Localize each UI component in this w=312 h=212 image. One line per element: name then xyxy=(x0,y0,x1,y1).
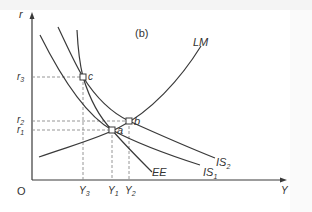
ee-label: EE xyxy=(152,166,167,178)
point-a-marker xyxy=(109,127,115,133)
y2-tick-label: Y2 xyxy=(125,185,136,197)
r-axis-arrow-icon xyxy=(30,12,35,19)
is1-label: IS1 xyxy=(203,166,217,180)
y-axis-label: Y xyxy=(281,185,289,196)
point-b-label: b xyxy=(134,115,140,127)
origin-label: O xyxy=(17,185,26,197)
y3-tick-label: Y3 xyxy=(79,185,90,197)
ee-curve xyxy=(77,30,152,172)
point-c-label: c xyxy=(88,71,93,82)
r3-tick-label: r3 xyxy=(17,71,24,83)
is2-curve xyxy=(58,27,215,158)
y-axis-arrow-icon xyxy=(280,178,287,183)
r-axis-label: r xyxy=(19,8,24,20)
is2-label: IS2 xyxy=(216,156,230,170)
panel-label: (b) xyxy=(135,27,148,39)
point-c-marker xyxy=(80,74,86,80)
point-b-marker xyxy=(126,118,132,124)
lm-label: LM xyxy=(193,36,209,48)
point-a-label: a xyxy=(117,124,123,136)
lm-curve xyxy=(39,46,201,157)
y1-tick-label: Y1 xyxy=(108,185,119,197)
is-lm-ee-diagram: c b a LM IS2 IS1 EE (b) r Y O r3 r2 r1 Y… xyxy=(0,0,312,212)
is1-curve xyxy=(40,35,200,165)
